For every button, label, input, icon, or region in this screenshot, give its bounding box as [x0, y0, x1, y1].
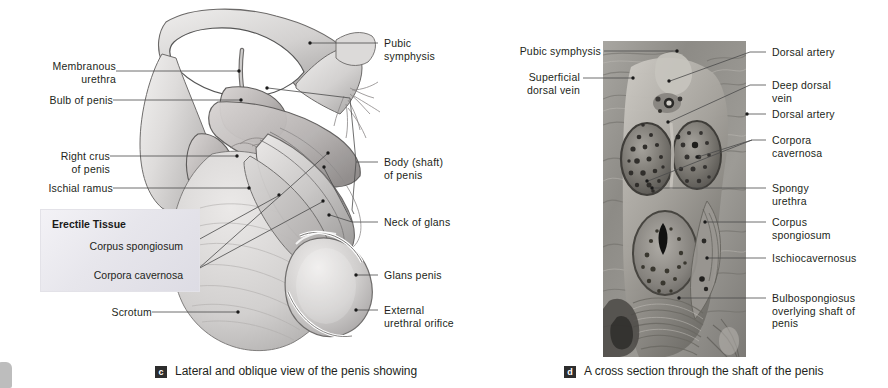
- label-scrotum: Scrotum: [60, 306, 152, 319]
- label-external-urethral-orifice: External urethral orifice: [384, 304, 484, 329]
- erectile-tissue-title: Erectile Tissue: [52, 218, 126, 230]
- label-spongy-urethra: Spongy urethra: [772, 182, 872, 207]
- label-membranous-urethra: Membranous urethra: [10, 60, 116, 85]
- caption-panel-c: c Lateral and oblique view of the penis …: [155, 364, 417, 378]
- label-glans-penis: Glans penis: [384, 269, 480, 282]
- photo-content: [603, 41, 746, 357]
- erectile-tissue-callout: Erectile Tissue Corpus spongiosum Corpor…: [40, 209, 200, 292]
- caption-panel-d: d A cross section through the shaft of t…: [564, 364, 823, 378]
- label-ischiocavernosus: Ischiocavernosus: [772, 252, 884, 265]
- panel-badge-c: c: [155, 366, 167, 378]
- label-bulb-of-penis: Bulb of penis: [10, 94, 113, 107]
- penis-cross-section-photograph: [603, 41, 746, 357]
- label-corpus-spongiosum-d: Corpus spongiosum: [772, 216, 872, 241]
- label-body-shaft-of-penis: Body (shaft) of penis: [384, 156, 480, 181]
- label-pubic-symphysis-c: Pubic symphysis: [384, 37, 480, 62]
- label-bulbospongiosus: Bulbospongiosus overlying shaft of penis: [772, 292, 884, 330]
- label-dorsal-artery-upper: Dorsal artery: [772, 46, 882, 59]
- label-ischial-ramus: Ischial ramus: [10, 182, 113, 195]
- panel-badge-d: d: [564, 366, 576, 378]
- label-dorsal-artery-lower: Dorsal artery: [772, 108, 882, 121]
- label-neck-of-glans: Neck of glans: [384, 216, 484, 229]
- label-superficial-dorsal-vein: Superficial dorsal vein: [500, 71, 580, 96]
- page-corner-artifact: [0, 362, 12, 388]
- callout-row-corpora-cavernosa: Corpora cavernosa: [94, 269, 183, 281]
- label-corpora-cavernosa-d: Corpora cavernosa: [772, 134, 872, 159]
- label-right-crus-of-penis: Right crus of penis: [10, 150, 110, 175]
- caption-text-d: A cross section through the shaft of the…: [584, 364, 823, 378]
- label-deep-dorsal-vein: Deep dorsal vein: [772, 79, 872, 104]
- caption-text-c: Lateral and oblique view of the penis sh…: [175, 364, 417, 378]
- penis-lateral-illustration: [100, 4, 380, 356]
- callout-row-corpus-spongiosum: Corpus spongiosum: [90, 240, 183, 252]
- label-pubic-symphysis-d: Pubic symphysis: [486, 45, 601, 58]
